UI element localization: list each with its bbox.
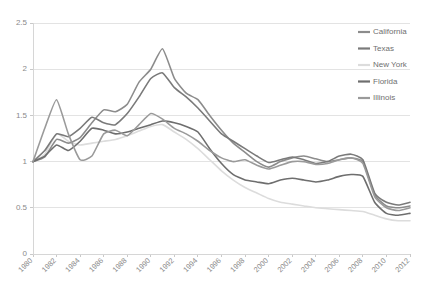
x-axis-tick-label: 1986: [87, 256, 105, 274]
axis-ticks: [30, 23, 410, 257]
legend-label-california: California: [373, 27, 407, 36]
x-axis-tick-label: 2002: [275, 256, 293, 274]
x-axis-labels: 1980198219841986198819901992199419961998…: [16, 256, 411, 274]
series-line-new-york: [33, 125, 410, 221]
x-axis-tick-label: 1980: [16, 256, 34, 274]
x-axis-tick-label: 1984: [63, 256, 81, 274]
x-axis-tick-label: 1988: [111, 256, 129, 274]
series-line-florida: [33, 121, 410, 215]
data-series: [33, 49, 410, 221]
x-axis-tick-label: 1996: [205, 256, 223, 274]
legend-label-texas: Texas: [373, 44, 394, 53]
series-line-california: [33, 49, 410, 208]
y-axis-tick-label: 1.5: [16, 111, 28, 120]
y-axis-tick-label: 1: [23, 157, 28, 166]
y-axis-tick-label: 2.5: [16, 18, 28, 27]
x-axis-tick-label: 2010: [370, 256, 388, 274]
y-axis-tick-label: 2: [23, 64, 28, 73]
x-axis-tick-label: 2000: [252, 256, 270, 274]
legend-label-florida: Florida: [373, 77, 398, 86]
line-chart: 00.511.522.5 198019821984198619881990199…: [0, 0, 423, 306]
x-axis-tick-label: 1992: [158, 256, 176, 274]
series-line-texas: [33, 73, 410, 205]
x-axis-tick-label: 2004: [299, 256, 317, 274]
axes: [33, 23, 410, 254]
x-axis-tick-label: 1982: [40, 256, 58, 274]
chart-legend: CaliforniaTexasNew YorkFloridaIllinois: [358, 27, 408, 102]
gridlines: [33, 23, 410, 208]
x-axis-tick-label: 1990: [134, 256, 152, 274]
x-axis-tick-label: 2012: [393, 256, 411, 274]
legend-label-new-york: New York: [373, 60, 408, 69]
chart-canvas: 00.511.522.5 198019821984198619881990199…: [0, 0, 423, 306]
x-axis-tick-label: 1998: [228, 256, 246, 274]
y-axis-tick-label: 0.5: [16, 203, 28, 212]
x-axis-tick-label: 2008: [346, 256, 364, 274]
x-axis-tick-label: 2006: [323, 256, 341, 274]
y-axis-labels: 00.511.522.5: [16, 18, 28, 258]
legend-label-illinois: Illinois: [373, 93, 395, 102]
x-axis-tick-label: 1994: [181, 256, 199, 274]
